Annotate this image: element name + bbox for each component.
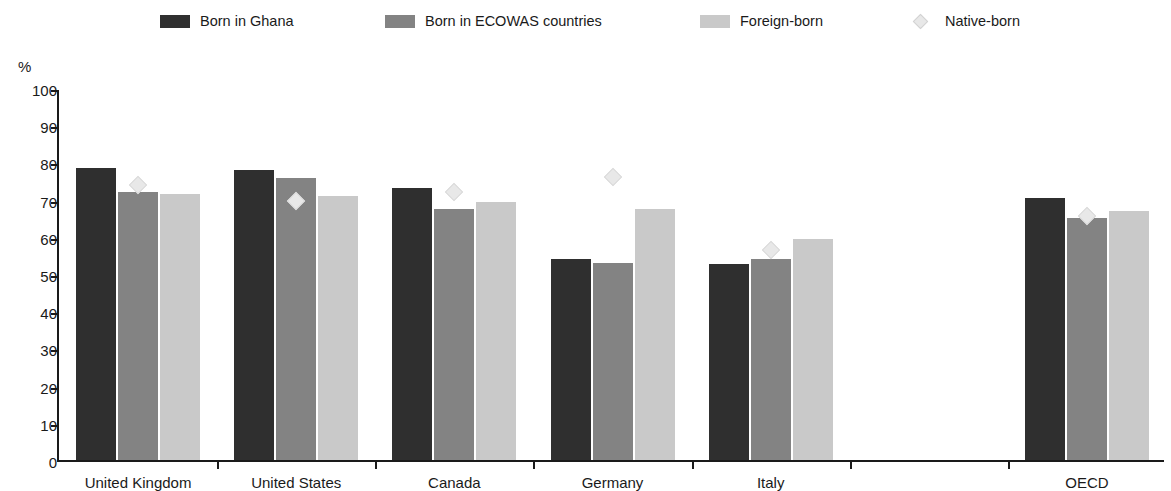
x-axis-tick-label: United Kingdom [85,474,192,491]
bar [635,209,675,460]
legend-swatch-icon [700,15,730,28]
x-axis-tick-label: OECD [1065,474,1108,491]
x-axis-tick-label: Germany [582,474,644,491]
plot-area: United KingdomUnited StatesCanadaGermany… [57,90,1164,462]
y-axis-tick-label: 70 [9,193,57,210]
x-axis-tick-mark [533,460,535,469]
legend-swatch-icon [160,15,190,28]
y-axis-tick-mark [51,127,59,129]
y-axis-tick-mark [51,90,59,92]
bar [234,170,274,460]
bar [593,263,633,460]
bar [76,168,116,460]
y-axis-tick-label: 30 [9,342,57,359]
x-axis-tick-label: United States [251,474,341,491]
native-born-marker [603,168,621,186]
bar [276,178,316,460]
y-axis-tick-label: 60 [9,230,57,247]
y-axis-tick-label: 0 [9,454,57,471]
native-born-marker [445,183,463,201]
y-axis-tick-label: 10 [9,416,57,433]
y-axis-tick-mark [51,313,59,315]
x-axis-tick-label: Canada [428,474,481,491]
legend-label: Native-born [945,8,1020,34]
y-axis-unit-label: % [18,58,31,75]
bar [1067,218,1107,460]
y-axis-tick-mark [51,350,59,352]
native-born-marker [761,241,779,259]
bar [160,194,200,460]
bar [318,196,358,460]
y-axis-tick-mark [51,388,59,390]
legend-item-0: Born in Ghana [160,8,294,34]
x-axis-tick-label: Italy [757,474,785,491]
legend-item-1: Born in ECOWAS countries [385,8,602,34]
y-axis-tick-mark [51,164,59,166]
y-axis-tick-mark [51,276,59,278]
legend-item-2: Foreign-born [700,8,823,34]
bar [709,264,749,460]
x-axis-tick-mark [850,460,852,469]
legend-diamond-icon [905,16,935,27]
legend-label: Born in Ghana [200,8,294,34]
chart-legend: Born in GhanaBorn in ECOWAS countriesFor… [0,8,1171,34]
bar [434,209,474,460]
bar [392,188,432,460]
y-axis-tick-mark [51,202,59,204]
native-born-marker [129,176,147,194]
y-axis-tick-label: 20 [9,379,57,396]
diamond-icon [912,13,928,29]
y-axis-tick-label: 90 [9,119,57,136]
legend-label: Foreign-born [740,8,823,34]
bar [793,239,833,460]
y-axis-labels: 1009080706050403020100 [0,82,57,472]
bar [751,259,791,460]
bar [1109,211,1149,460]
legend-item-3: Native-born [905,8,1020,34]
bar [551,259,591,460]
legend-swatch-icon [385,15,415,28]
y-axis-tick-label: 100 [9,82,57,99]
y-axis-tick-label: 80 [9,156,57,173]
y-axis-tick-mark [51,425,59,427]
legend-label: Born in ECOWAS countries [425,8,602,34]
x-axis-tick-mark [692,460,694,469]
bar [476,202,516,460]
y-axis-tick-label: 40 [9,305,57,322]
x-axis-tick-mark [1008,460,1010,469]
y-axis-tick-mark [51,239,59,241]
bar [1025,198,1065,460]
x-axis-tick-mark [217,460,219,469]
x-axis-tick-mark [375,460,377,469]
y-axis-tick-label: 50 [9,268,57,285]
bar [118,192,158,460]
